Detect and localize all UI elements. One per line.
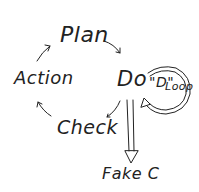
arrow-check-to-action xyxy=(38,102,51,116)
arrow-do-to-check xyxy=(107,101,120,117)
node-action: Action xyxy=(14,67,74,88)
loop-label-loop: Loop xyxy=(165,80,194,93)
node-check: Check xyxy=(57,116,118,138)
node-fake-c: Fake C xyxy=(102,164,159,183)
node-plan: Plan xyxy=(60,22,109,47)
arrow-action-to-plan xyxy=(37,46,50,61)
node-do: Do xyxy=(117,67,147,91)
fake-c-double-arrow xyxy=(127,100,134,151)
